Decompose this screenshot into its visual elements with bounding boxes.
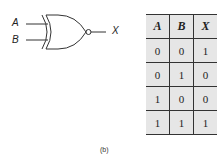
input-b-label: B <box>12 34 19 45</box>
table-row: 1 1 1 <box>146 111 217 135</box>
figure-caption: (b) <box>100 146 109 153</box>
table-header-row: A B X <box>146 15 217 39</box>
table-row: 0 1 0 <box>146 63 217 87</box>
xnor-gate-icon <box>0 0 140 60</box>
header-x: X <box>194 15 218 39</box>
cell: 1 <box>170 63 194 87</box>
cell: 0 <box>194 63 218 87</box>
cell: 1 <box>146 87 170 111</box>
cell: 1 <box>194 39 218 63</box>
output-x-label: X <box>112 25 119 36</box>
truth-table: A B X 0 0 1 0 1 0 1 0 0 1 1 1 <box>146 14 217 135</box>
input-a-label: A <box>12 17 19 28</box>
cell: 1 <box>194 111 218 135</box>
cell: 0 <box>146 63 170 87</box>
table-row: 1 0 0 <box>146 87 217 111</box>
cell: 1 <box>146 111 170 135</box>
cell: 0 <box>194 87 218 111</box>
header-b: B <box>170 15 194 39</box>
cell: 0 <box>170 39 194 63</box>
header-a: A <box>146 15 170 39</box>
table-row: 0 0 1 <box>146 39 217 63</box>
cell: 0 <box>170 87 194 111</box>
cell: 0 <box>146 39 170 63</box>
cell: 1 <box>170 111 194 135</box>
